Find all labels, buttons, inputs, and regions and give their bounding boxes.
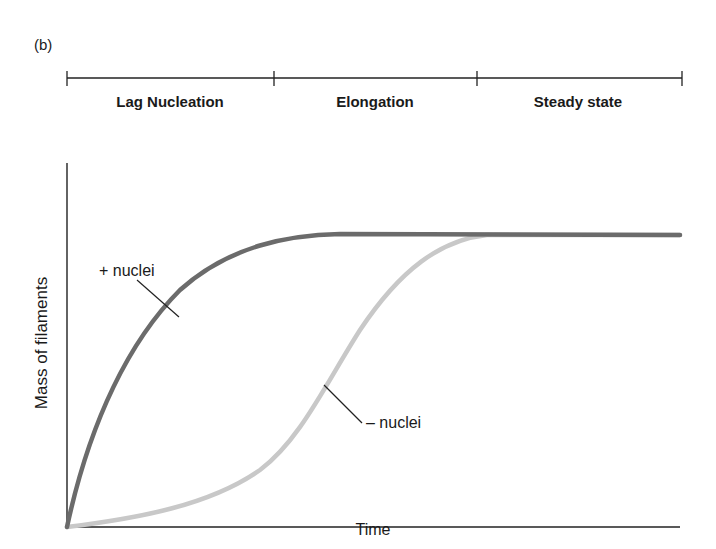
minus-nuclei-label: – nuclei (366, 414, 421, 432)
minus-nuclei-leader (324, 385, 362, 423)
minus-nuclei-curve (67, 235, 680, 527)
x-axis-label: Time (356, 521, 391, 539)
plus-nuclei-curve (67, 234, 680, 527)
plus-nuclei-label: + nuclei (99, 262, 155, 280)
y-axis-label: Mass of filaments (32, 277, 52, 409)
